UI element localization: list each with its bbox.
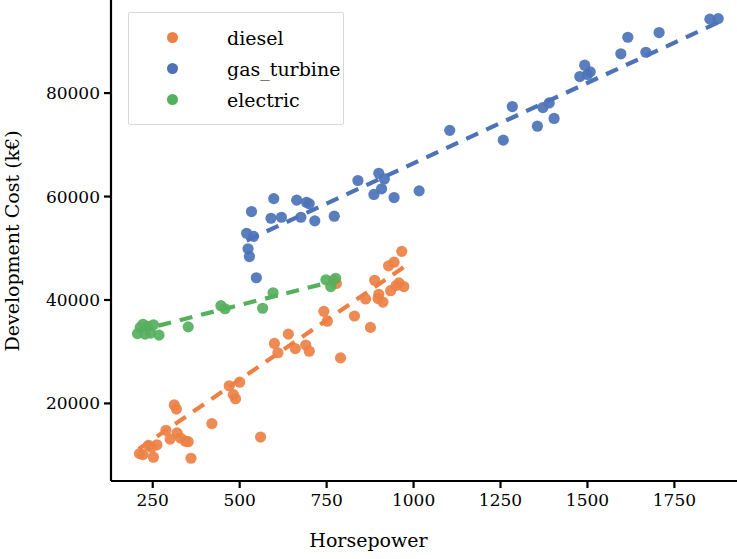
data-point-diesel bbox=[322, 316, 333, 327]
data-point-diesel bbox=[369, 275, 380, 286]
data-point-gas_turbine bbox=[304, 198, 315, 209]
data-point-electric bbox=[257, 303, 268, 314]
data-point-electric bbox=[148, 319, 159, 330]
data-point-gas_turbine bbox=[532, 121, 543, 132]
x-axis-label: Horsepower bbox=[0, 529, 737, 551]
data-point-diesel bbox=[349, 310, 360, 321]
legend[interactable]: dieselgas_turbineelectric bbox=[128, 12, 344, 125]
data-point-diesel bbox=[171, 404, 182, 415]
data-point-diesel bbox=[360, 293, 371, 304]
x-tick-label: 250 bbox=[136, 490, 168, 510]
y-axis-label-text: Development Cost (k€) bbox=[1, 130, 23, 351]
data-point-diesel bbox=[290, 343, 301, 354]
data-point-diesel bbox=[272, 347, 283, 358]
data-point-diesel bbox=[388, 257, 399, 268]
y-tick-label: 40000 bbox=[46, 290, 100, 310]
data-point-diesel bbox=[148, 452, 159, 463]
data-point-electric bbox=[183, 321, 194, 332]
data-point-diesel bbox=[185, 453, 196, 464]
data-point-gas_turbine bbox=[653, 27, 664, 38]
data-point-gas_turbine bbox=[352, 175, 363, 186]
y-axis-label: Development Cost (k€) bbox=[0, 0, 24, 481]
data-point-gas_turbine bbox=[548, 113, 559, 124]
data-point-gas_turbine bbox=[251, 272, 262, 283]
data-point-gas_turbine bbox=[265, 213, 276, 224]
data-point-diesel bbox=[255, 431, 266, 442]
data-point-gas_turbine bbox=[276, 212, 287, 223]
data-point-diesel bbox=[304, 346, 315, 357]
data-point-gas_turbine bbox=[244, 251, 255, 262]
legend-label: electric bbox=[227, 89, 300, 111]
data-point-gas_turbine bbox=[544, 97, 555, 108]
data-point-gas_turbine bbox=[498, 135, 509, 146]
data-point-gas_turbine bbox=[713, 13, 724, 24]
data-point-gas_turbine bbox=[379, 173, 390, 184]
legend-label: gas_turbine bbox=[227, 58, 340, 80]
data-point-gas_turbine bbox=[615, 48, 626, 59]
data-point-diesel bbox=[335, 352, 346, 363]
data-point-gas_turbine bbox=[295, 212, 306, 223]
data-point-diesel bbox=[151, 439, 162, 450]
data-point-gas_turbine bbox=[248, 231, 259, 242]
data-point-gas_turbine bbox=[376, 183, 387, 194]
data-point-diesel bbox=[377, 296, 388, 307]
data-point-diesel bbox=[230, 393, 241, 404]
data-point-gas_turbine bbox=[291, 195, 302, 206]
legend-marker-icon bbox=[167, 94, 178, 105]
data-point-gas_turbine bbox=[329, 211, 340, 222]
y-tick-label: 60000 bbox=[46, 187, 100, 207]
data-point-diesel bbox=[365, 322, 376, 333]
data-point-electric bbox=[219, 303, 230, 314]
data-point-diesel bbox=[398, 281, 409, 292]
x-tick-label: 1000 bbox=[392, 490, 435, 510]
legend-marker-icon bbox=[167, 32, 178, 43]
legend-item-diesel[interactable]: diesel bbox=[139, 22, 333, 53]
legend-marker-icon bbox=[167, 63, 178, 74]
data-point-diesel bbox=[234, 377, 245, 388]
data-point-gas_turbine bbox=[622, 32, 633, 43]
plot-canvas bbox=[0, 0, 737, 559]
data-point-electric bbox=[267, 287, 278, 298]
data-point-gas_turbine bbox=[585, 66, 596, 77]
data-point-diesel bbox=[318, 306, 329, 317]
legend-label: diesel bbox=[227, 27, 284, 49]
x-tick-label: 1500 bbox=[566, 490, 609, 510]
data-point-gas_turbine bbox=[640, 47, 651, 58]
trend-line-electric bbox=[137, 281, 335, 331]
legend-item-electric[interactable]: electric bbox=[139, 84, 333, 115]
data-point-electric bbox=[330, 273, 341, 284]
data-point-diesel bbox=[283, 329, 294, 340]
data-point-gas_turbine bbox=[388, 192, 399, 203]
x-tick-label: 1250 bbox=[479, 490, 522, 510]
x-tick-label: 750 bbox=[310, 490, 342, 510]
data-point-diesel bbox=[396, 246, 407, 257]
x-tick-label: 500 bbox=[223, 490, 255, 510]
y-tick-label: 20000 bbox=[46, 393, 100, 413]
data-point-gas_turbine bbox=[309, 215, 320, 226]
data-point-diesel bbox=[206, 418, 217, 429]
data-point-gas_turbine bbox=[246, 206, 257, 217]
scatter-plot-figure: Horsepower Development Cost (k€) 2505007… bbox=[0, 0, 737, 559]
data-point-diesel bbox=[183, 436, 194, 447]
data-point-electric bbox=[153, 330, 164, 341]
x-tick-label: 1750 bbox=[653, 490, 696, 510]
legend-item-gas_turbine[interactable]: gas_turbine bbox=[139, 53, 333, 84]
y-tick-label: 80000 bbox=[46, 83, 100, 103]
data-point-gas_turbine bbox=[507, 101, 518, 112]
data-point-gas_turbine bbox=[444, 125, 455, 136]
data-point-gas_turbine bbox=[268, 193, 279, 204]
data-point-gas_turbine bbox=[414, 185, 425, 196]
